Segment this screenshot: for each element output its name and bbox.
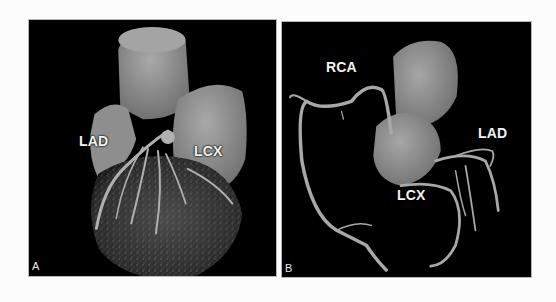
label-lad-b: LAD bbox=[478, 125, 507, 141]
label-lcx-a: LCX bbox=[194, 143, 223, 159]
label-rca-b: RCA bbox=[326, 59, 357, 75]
heart-volume-render-image bbox=[29, 20, 276, 276]
panel-a-heart-3d-render: LAD LCX A bbox=[28, 19, 277, 277]
panel-letter-b: B bbox=[285, 262, 292, 274]
panel-b-coronary-tree-render: RCA LAD LCX B bbox=[281, 21, 532, 278]
label-lad-a: LAD bbox=[79, 133, 108, 149]
panel-letter-a: A bbox=[32, 260, 39, 272]
coronary-tree-render-image bbox=[282, 22, 531, 277]
label-lcx-b: LCX bbox=[397, 187, 426, 203]
